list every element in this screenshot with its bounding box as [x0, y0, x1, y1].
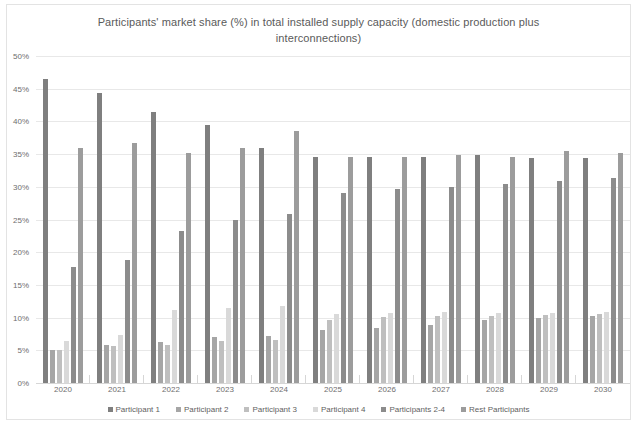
bar-group	[252, 56, 306, 383]
bar[interactable]	[71, 267, 76, 383]
bar[interactable]	[590, 316, 595, 383]
x-axis-tick-label: 2028	[468, 385, 522, 394]
bar[interactable]	[57, 350, 62, 383]
bar[interactable]	[402, 157, 407, 383]
plot-area	[36, 56, 630, 383]
bar[interactable]	[240, 148, 245, 383]
bar[interactable]	[496, 313, 501, 383]
bar[interactable]	[97, 93, 102, 383]
legend-item[interactable]: Participant 2	[176, 405, 228, 414]
bar[interactable]	[489, 316, 494, 383]
bar[interactable]	[529, 158, 534, 383]
bar[interactable]	[165, 345, 170, 383]
bar-group	[468, 56, 522, 383]
bar[interactable]	[482, 320, 487, 383]
legend-swatch-icon	[381, 407, 386, 412]
bar[interactable]	[543, 315, 548, 383]
bar-groups	[36, 56, 630, 383]
bar[interactable]	[219, 341, 224, 384]
bar[interactable]	[273, 340, 278, 383]
bar[interactable]	[313, 157, 318, 383]
bar-group	[360, 56, 414, 383]
bar[interactable]	[212, 337, 217, 383]
bar-group	[522, 56, 576, 383]
bar[interactable]	[327, 320, 332, 383]
bar[interactable]	[421, 157, 426, 383]
bar[interactable]	[557, 181, 562, 383]
bar[interactable]	[158, 342, 163, 383]
bar[interactable]	[132, 143, 137, 383]
bar[interactable]	[442, 312, 447, 383]
x-axis-tick-label: 2020	[36, 385, 90, 394]
y-axis-tick-label: 0%	[17, 379, 29, 388]
bar[interactable]	[381, 317, 386, 383]
bar[interactable]	[104, 345, 109, 383]
bar[interactable]	[395, 189, 400, 383]
bar[interactable]	[172, 310, 177, 383]
legend-item[interactable]: Participant 3	[244, 405, 296, 414]
bar[interactable]	[428, 325, 433, 383]
bar[interactable]	[320, 330, 325, 383]
bar[interactable]	[456, 155, 461, 383]
legend-swatch-icon	[108, 407, 113, 412]
legend-swatch-icon	[244, 407, 249, 412]
bar[interactable]	[280, 306, 285, 383]
bar[interactable]	[334, 314, 339, 383]
legend-swatch-icon	[176, 407, 181, 412]
bar[interactable]	[226, 308, 231, 383]
bar[interactable]	[78, 148, 83, 383]
bar[interactable]	[374, 328, 379, 383]
bar[interactable]	[510, 157, 515, 383]
bar[interactable]	[435, 316, 440, 383]
bar[interactable]	[388, 313, 393, 383]
legend-label: Participant 3	[252, 405, 296, 414]
bar[interactable]	[233, 220, 238, 384]
y-axis-tick-label: 45%	[13, 84, 29, 93]
bar[interactable]	[111, 346, 116, 383]
bar[interactable]	[179, 231, 184, 383]
bar[interactable]	[259, 148, 264, 383]
bar[interactable]	[186, 153, 191, 383]
bar[interactable]	[536, 318, 541, 383]
legend-item[interactable]: Participants 2-4	[381, 405, 445, 414]
bar-group	[306, 56, 360, 383]
bar[interactable]	[118, 335, 123, 383]
x-axis-tick-label: 2027	[414, 385, 468, 394]
bar[interactable]	[611, 178, 616, 383]
bar[interactable]	[449, 187, 454, 383]
bar[interactable]	[503, 184, 508, 383]
bar[interactable]	[550, 313, 555, 383]
bar[interactable]	[64, 341, 69, 384]
y-axis-tick-label: 50%	[13, 52, 29, 61]
bar[interactable]	[43, 79, 48, 383]
bar[interactable]	[597, 314, 602, 383]
chart-legend: Participant 1Participant 2Participant 3P…	[0, 405, 637, 414]
y-axis-tick-label: 40%	[13, 117, 29, 126]
bar[interactable]	[341, 193, 346, 383]
bar[interactable]	[50, 350, 55, 383]
y-axis: 50%45%40%35%30%25%20%15%10%5%0%	[0, 56, 33, 383]
bar[interactable]	[564, 151, 569, 383]
bar[interactable]	[125, 260, 130, 383]
y-axis-tick-label: 25%	[13, 215, 29, 224]
bar[interactable]	[618, 153, 623, 383]
legend-item[interactable]: Participant 4	[313, 405, 365, 414]
bar[interactable]	[287, 214, 292, 383]
bar[interactable]	[151, 112, 156, 383]
gridline	[36, 383, 630, 384]
bar[interactable]	[475, 155, 480, 383]
bar[interactable]	[583, 158, 588, 383]
bar[interactable]	[205, 125, 210, 383]
bar[interactable]	[367, 157, 372, 383]
x-axis-tick-label: 2021	[90, 385, 144, 394]
x-axis-tick-label: 2025	[306, 385, 360, 394]
y-axis-tick-label: 30%	[13, 182, 29, 191]
x-axis-tick-label: 2022	[144, 385, 198, 394]
legend-item[interactable]: Rest Participants	[461, 405, 529, 414]
bar[interactable]	[604, 312, 609, 383]
bar[interactable]	[266, 336, 271, 383]
legend-item[interactable]: Participant 1	[108, 405, 160, 414]
bar[interactable]	[348, 157, 353, 383]
bar[interactable]	[294, 131, 299, 383]
legend-label: Rest Participants	[469, 405, 529, 414]
